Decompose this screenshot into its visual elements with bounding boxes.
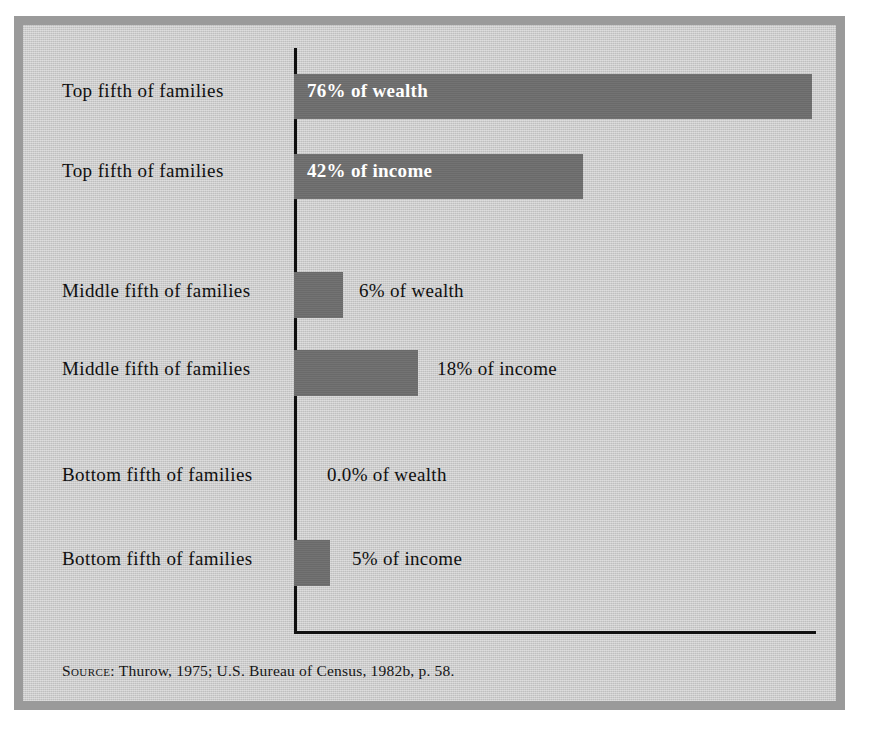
x-axis-line	[294, 631, 816, 634]
category-label-top-fifth-wealth: Top fifth of families	[62, 80, 284, 102]
source-note-text: Thurow, 1975; U.S. Bureau of Census, 198…	[115, 662, 455, 679]
category-label-bottom-fifth-wealth: Bottom fifth of families	[62, 464, 284, 486]
bar-middle-fifth-wealth	[294, 272, 343, 318]
figure-page: Top fifth of families 76% of wealth Top …	[0, 0, 873, 743]
category-label-top-fifth-income: Top fifth of families	[62, 160, 284, 182]
category-label-bottom-fifth-income: Bottom fifth of families	[62, 548, 284, 570]
bar-middle-fifth-income	[294, 350, 418, 396]
value-label-top-fifth-income: 42% of income	[307, 160, 432, 182]
value-label-bottom-fifth-income: 5% of income	[352, 548, 462, 570]
value-label-top-fifth-wealth: 76% of wealth	[307, 80, 428, 102]
value-label-middle-fifth-income: 18% of income	[437, 358, 557, 380]
value-label-middle-fifth-wealth: 6% of wealth	[359, 280, 464, 302]
source-note: Source: Thurow, 1975; U.S. Bureau of Cen…	[62, 662, 455, 680]
value-label-bottom-fifth-wealth: 0.0% of wealth	[327, 464, 447, 486]
source-note-prefix: Source:	[62, 662, 115, 679]
category-label-middle-fifth-wealth: Middle fifth of families	[62, 280, 284, 302]
bar-bottom-fifth-income	[294, 540, 330, 586]
category-label-middle-fifth-income: Middle fifth of families	[62, 358, 284, 380]
